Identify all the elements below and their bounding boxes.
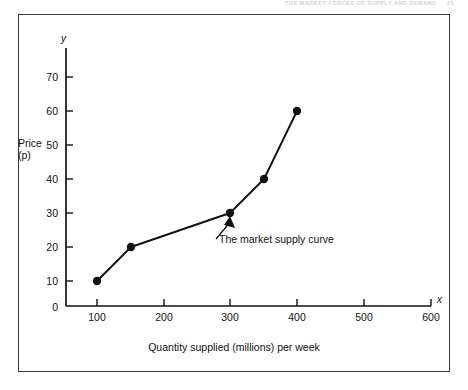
x-tick-label-300: 300 [210,311,250,323]
x-tick-label-600: 600 [411,311,451,323]
y-axis-title-line2: (p) [18,150,62,162]
x-axis-title: Quantity supplied (millions) per week [0,341,468,353]
y-tick-label-0: 0 [34,301,58,313]
y-axis-letter: y [61,33,66,44]
y-tick-label-60: 60 [34,105,58,117]
y-tick-label-10: 10 [34,275,58,287]
y-tick-label-20: 20 [34,241,58,253]
y-tick-label-70: 70 [34,71,58,83]
x-tick-label-400: 400 [277,311,317,323]
running-head: THE MARKET FORCES OF SUPPLY AND DEMAND 3… [0,0,468,11]
y-axis-title: Price (p) [18,138,62,161]
curve-annotation-label: The market supply curve [219,233,334,245]
y-axis-title-line1: Price [18,138,62,150]
y-tick-label-30: 30 [34,207,58,219]
x-tick-label-500: 500 [344,311,384,323]
x-tick-label-200: 200 [144,311,184,323]
x-axis-letter: x [437,294,442,305]
running-head-title: THE MARKET FORCES OF SUPPLY AND DEMAND [285,0,437,6]
x-tick-label-100: 100 [77,311,117,323]
page-number: 35 [447,0,454,6]
y-tick-label-40: 40 [34,173,58,185]
